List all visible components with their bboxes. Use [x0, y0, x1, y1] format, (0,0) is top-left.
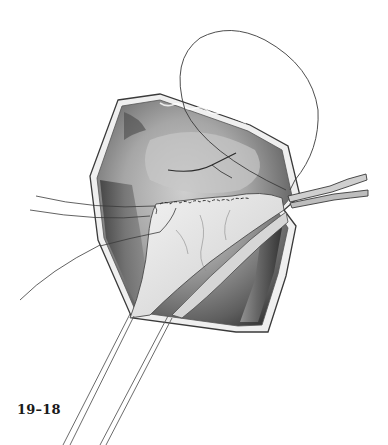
forceps-right	[288, 174, 368, 208]
figure-label: 19–18	[17, 402, 61, 417]
surgical-illustration	[0, 0, 388, 445]
forceps-bottom	[63, 314, 172, 445]
